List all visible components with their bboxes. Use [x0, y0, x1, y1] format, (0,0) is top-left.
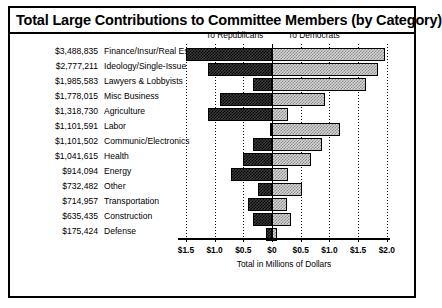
category-label: Other	[104, 179, 176, 194]
amount-column: $3,488,835$2,777,211$1,985,583$1,778,015…	[14, 44, 98, 239]
bar-segment-republicans	[253, 78, 272, 91]
amount-value: $3,488,835	[14, 44, 98, 59]
x-tick	[387, 238, 388, 242]
legend-label-republicans: To Republicans	[206, 30, 263, 40]
bar-row	[178, 78, 390, 91]
bar-row	[178, 63, 390, 76]
bar-segment-democrats	[272, 138, 322, 151]
category-column: Finance/Insur/Real EstIdeology/Single-Is…	[104, 44, 176, 239]
bar-segment-democrats	[272, 123, 340, 136]
category-label: Defense	[104, 224, 176, 239]
category-label: Misc Business	[104, 89, 176, 104]
x-tick-label: $0	[267, 245, 276, 255]
category-label: Ideology/Single-Issue	[104, 59, 176, 74]
plot-area	[178, 44, 390, 238]
x-tick-label: $1.0	[206, 245, 222, 255]
x-tick-label: $1.5	[178, 245, 194, 255]
bar-segment-republicans	[186, 48, 272, 61]
amount-value: $1,041,615	[14, 149, 98, 164]
category-label: Health	[104, 149, 176, 164]
amount-value: $175,424	[14, 224, 98, 239]
bar-segment-democrats	[272, 153, 311, 166]
bar-segment-republicans	[243, 153, 272, 166]
bar-row	[178, 138, 390, 151]
amount-value: $2,777,211	[14, 59, 98, 74]
x-tick-label: $0.5	[235, 245, 251, 255]
x-axis-label: Total in Millions of Dollars	[178, 259, 390, 269]
bar-row	[178, 183, 390, 196]
bar-segment-republicans	[258, 183, 272, 196]
bar-segment-republicans	[208, 108, 272, 121]
bar-row	[178, 168, 390, 181]
category-label: Labor	[104, 119, 176, 134]
x-tick	[243, 238, 244, 242]
category-label: Energy	[104, 164, 176, 179]
bar-segment-democrats	[272, 48, 385, 61]
bar-segment-republicans	[253, 213, 272, 226]
x-tick	[272, 238, 273, 242]
category-label: Communic/Electronics	[104, 134, 176, 149]
amount-value: $914,094	[14, 164, 98, 179]
amount-value: $635,435	[14, 209, 98, 224]
x-tick-label: $0.5	[293, 245, 309, 255]
x-tick-label: $2.0	[379, 245, 395, 255]
bar-segment-republicans	[220, 93, 272, 106]
bar-row	[178, 123, 390, 136]
bar-segment-democrats	[272, 78, 366, 91]
bar-segment-democrats	[272, 183, 302, 196]
x-tick	[215, 238, 216, 242]
x-tick-label: $1.5	[350, 245, 366, 255]
bar-segment-democrats	[272, 213, 291, 226]
category-label: Agriculture	[104, 104, 176, 119]
amount-value: $714,957	[14, 194, 98, 209]
bar-row	[178, 213, 390, 226]
category-label: Construction	[104, 209, 176, 224]
page-title: Total Large Contributions to Committee M…	[10, 12, 442, 28]
bar-segment-republicans	[231, 168, 272, 181]
amount-value: $1,985,583	[14, 74, 98, 89]
x-tick	[329, 238, 330, 242]
amount-value: $1,101,591	[14, 119, 98, 134]
bar-segment-democrats	[272, 108, 288, 121]
category-label: Lawyers & Lobbyists	[104, 74, 176, 89]
bar-row	[178, 153, 390, 166]
bar-segment-republicans	[253, 138, 272, 151]
amount-value: $1,778,015	[14, 89, 98, 104]
x-tick-label: $1.0	[321, 245, 337, 255]
bar-row	[178, 108, 390, 121]
bar-segment-republicans	[248, 198, 272, 211]
category-label: Transportation	[104, 194, 176, 209]
x-tick	[358, 238, 359, 242]
x-tick	[301, 238, 302, 242]
amount-value: $1,318,730	[14, 104, 98, 119]
x-tick	[186, 238, 187, 242]
bar-row	[178, 198, 390, 211]
bar-segment-democrats	[272, 168, 288, 181]
bar-segment-democrats	[272, 93, 325, 106]
legend-label-democrats: To Democrats	[288, 30, 340, 40]
bar-segment-republicans	[208, 63, 272, 76]
bar-row	[178, 48, 390, 61]
amount-value: $732,482	[14, 179, 98, 194]
amount-value: $1,101,502	[14, 134, 98, 149]
bar-segment-democrats	[272, 198, 287, 211]
bar-segment-democrats	[272, 63, 378, 76]
bar-row	[178, 93, 390, 106]
category-label: Finance/Insur/Real Est	[104, 44, 176, 59]
